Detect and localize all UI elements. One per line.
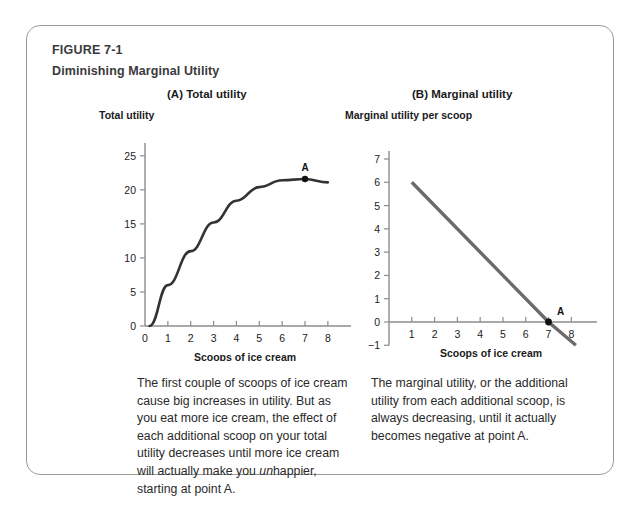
chart-a-point-a-marker (302, 176, 308, 182)
chart-a-x-tick-label: 3 (211, 332, 217, 344)
chart-a-x-tick-label: 4 (234, 332, 240, 344)
chart-a-point-a-label: A (301, 162, 308, 173)
chart-a-x-tick-label: 2 (188, 332, 194, 344)
chart-a-x-tick-label: 7 (302, 332, 308, 344)
chart-b-svg: −10123456712345678 A Scoops of ice cream (333, 101, 618, 361)
chart-a-y-tick-label: 20 (124, 184, 136, 196)
chart-b-y-tick-label: 7 (374, 153, 380, 165)
chart-a-x-tick-label: 1 (165, 332, 171, 344)
chart-a-y-tick-label: 5 (130, 286, 136, 298)
chart-a-y-tick-label: 15 (124, 218, 136, 230)
chart-b: −10123456712345678 A Scoops of ice cream (333, 101, 618, 361)
caption-a-text: The first couple of scoops of ice cream … (137, 376, 348, 478)
chart-b-y-tick-label: −1 (368, 339, 380, 351)
chart-a-y-tick-label: 25 (124, 150, 136, 162)
chart-b-x-tick-label: 5 (500, 328, 506, 340)
caption-panel-b: The marginal utility, or the additional … (371, 375, 586, 445)
chart-b-x-tick-label: 2 (432, 328, 438, 340)
chart-a-y-tick-label: 10 (124, 252, 136, 264)
chart-b-axes (389, 151, 597, 345)
chart-a: 0510152025012345678 A Scoops of ice crea… (87, 101, 367, 361)
chart-a-annotation-a: A (301, 162, 308, 182)
figure-title: Diminishing Marginal Utility (52, 64, 219, 78)
caption-panel-a: The first couple of scoops of ice cream … (137, 375, 352, 498)
chart-b-y-tick-label: 4 (374, 223, 380, 235)
chart-b-y-tick-label: 2 (374, 269, 380, 281)
chart-a-x-tick-label: 8 (325, 332, 331, 344)
chart-b-x-tick-label: 6 (523, 328, 529, 340)
figure-number: FIGURE 7-1 (52, 43, 123, 57)
chart-b-x-tick-label: 7 (546, 328, 552, 340)
chart-a-x-tick-label: 5 (256, 332, 262, 344)
chart-a-axes (145, 143, 351, 326)
chart-b-x-tick-label: 4 (477, 328, 483, 340)
chart-a-svg: 0510152025012345678 A Scoops of ice crea… (87, 101, 367, 361)
chart-b-y-tick-label: 0 (374, 316, 380, 328)
chart-b-x-tick-label: 1 (409, 328, 415, 340)
chart-b-point-a-label: A (557, 306, 564, 317)
chart-b-y-tick-label: 3 (374, 246, 380, 258)
chart-b-point-a-marker (545, 319, 552, 326)
chart-a-y-tick-label: 0 (130, 320, 136, 332)
chart-b-y-tick-label: 6 (374, 176, 380, 188)
caption-a-italic: un (259, 464, 273, 478)
chart-b-x-tick-label: 3 (454, 328, 460, 340)
chart-a-x-axis-label: Scoops of ice cream (194, 351, 296, 361)
chart-b-y-tick-label: 1 (374, 293, 380, 305)
panel-a-title: (A) Total utility (167, 88, 247, 100)
panel-b-title: (B) Marginal utility (412, 88, 512, 100)
figure-container: FIGURE 7-1 Diminishing Marginal Utility … (26, 25, 614, 475)
chart-a-x-tick-label: 0 (142, 332, 148, 344)
chart-b-y-tick-label: 5 (374, 200, 380, 212)
chart-b-x-axis-label: Scoops of ice cream (440, 347, 542, 359)
chart-a-x-tick-label: 6 (279, 332, 285, 344)
chart-a-total-utility-curve (150, 179, 328, 326)
